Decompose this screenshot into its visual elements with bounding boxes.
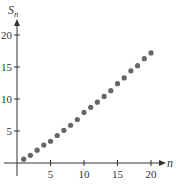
data-point	[115, 81, 120, 86]
data-point	[148, 50, 153, 55]
y-tick-label: 15	[1, 61, 13, 73]
data-points	[21, 50, 153, 161]
data-point	[81, 110, 86, 115]
data-point	[135, 63, 140, 68]
data-point	[68, 123, 73, 128]
data-point	[61, 128, 66, 133]
x-tick-label: 20	[146, 168, 158, 180]
axes	[4, 19, 166, 176]
x-tick-label: 10	[79, 168, 91, 180]
data-point	[122, 75, 127, 80]
data-point	[35, 148, 40, 153]
y-tick-label: 10	[1, 93, 13, 105]
y-axis-arrow-icon	[14, 19, 20, 26]
data-point	[41, 142, 46, 147]
data-point	[55, 133, 60, 138]
y-axis-label: Sn	[8, 3, 19, 19]
x-axis-arrow-icon	[159, 160, 166, 166]
data-point	[88, 105, 93, 110]
y-tick-label: 20	[1, 29, 13, 41]
scatter-chart: 51015205101520 Sn n	[0, 0, 176, 185]
data-point	[128, 68, 133, 73]
x-tick-label: 5	[48, 168, 54, 180]
data-point	[28, 153, 33, 158]
x-tick-label: 15	[112, 168, 124, 180]
data-point	[142, 56, 147, 61]
x-axis-label: n	[167, 156, 173, 170]
data-point	[21, 157, 26, 162]
data-point	[95, 100, 100, 105]
data-point	[75, 117, 80, 122]
data-point	[102, 94, 107, 99]
data-point	[48, 139, 53, 144]
y-tick-label: 5	[7, 125, 13, 137]
data-point	[108, 88, 113, 93]
